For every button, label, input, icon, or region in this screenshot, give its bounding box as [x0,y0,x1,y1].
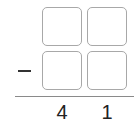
minuend-ones-input-box[interactable] [87,7,127,46]
subtrahend-ones-input-box[interactable] [87,51,127,90]
minus-sign [18,70,31,72]
result-divider-line [15,96,134,97]
result-tens-digit: 4 [42,101,82,123]
minuend-tens-input-box[interactable] [42,7,82,46]
subtrahend-tens-input-box[interactable] [42,51,82,90]
result-ones-digit: 1 [87,101,127,123]
